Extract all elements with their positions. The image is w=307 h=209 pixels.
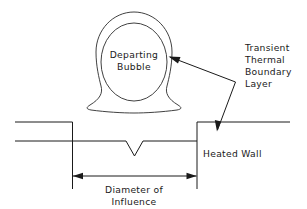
dimension-arrowhead-left — [73, 173, 83, 179]
bubble-label-line-2: Bubble — [117, 61, 151, 72]
boundary-layer-label-line-4: Layer — [245, 78, 272, 89]
dimension-arrowhead-right — [187, 173, 197, 179]
leader-polyline — [170, 57, 236, 130]
bubble-label-line-1: Departing — [110, 49, 158, 60]
diagram-canvas: Departing Bubble Transient Thermal Bound… — [0, 0, 307, 209]
leader-arrowhead-bubble — [169, 57, 181, 64]
boundary-layer-label-line-1: Transient — [244, 42, 290, 53]
boiling-schematic-diagram: Departing Bubble Transient Thermal Bound… — [0, 0, 307, 209]
diameter-of-influence-dimension — [73, 141, 198, 189]
dimension-label-line-1: Diameter of — [105, 184, 163, 195]
heated-wall-label: Heated Wall — [203, 148, 262, 159]
boundary-layer-label-line-3: Boundary — [245, 66, 292, 77]
nucleation-site-cavity — [126, 141, 143, 156]
leader-line-with-arrowheads — [169, 57, 236, 132]
boundary-layer-label-line-2: Thermal — [244, 54, 285, 65]
dimension-label-line-2: Influence — [111, 196, 156, 207]
